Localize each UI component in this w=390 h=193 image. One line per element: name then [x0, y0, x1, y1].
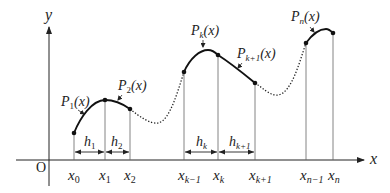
pointer-p1	[78, 110, 84, 114]
node-x1	[103, 98, 108, 103]
label-x2: x2	[123, 167, 136, 185]
label-hk: hk	[196, 134, 208, 151]
node-xk1	[253, 81, 258, 86]
piecewise-interpolation-diagram: y x O	[0, 0, 390, 193]
label-hk1: hk+1	[229, 134, 251, 151]
node-xn	[331, 31, 336, 36]
node-x0	[72, 131, 77, 136]
label-x1: x1	[98, 167, 111, 185]
segment-pk	[184, 50, 218, 72]
node-points	[72, 31, 336, 136]
label-xk1: xk+1	[248, 167, 272, 185]
x-axis-label: x	[369, 150, 377, 167]
label-xk: xk	[212, 167, 225, 185]
solid-curves	[74, 29, 333, 133]
label-p1: P1(x)	[60, 94, 90, 111]
label-xn: xn	[327, 167, 340, 185]
label-pn: Pn(x)	[290, 9, 320, 26]
label-pk1: Pk+1(x)	[236, 46, 276, 63]
pointer-pn	[310, 27, 314, 32]
label-xk-1: xk−1	[177, 167, 201, 185]
label-p2: P2(x)	[117, 78, 147, 95]
label-x0: x0	[67, 167, 80, 185]
node-xk-1	[182, 70, 187, 75]
label-xn-1: xn−1	[299, 167, 323, 185]
segment-pn	[306, 29, 333, 43]
segment-p2	[105, 100, 130, 109]
node-xn-1	[304, 41, 309, 46]
label-h2: h2	[111, 134, 123, 151]
node-xk	[216, 53, 221, 58]
y-axis-label: y	[43, 6, 53, 24]
origin-label: O	[36, 160, 46, 175]
label-h1: h1	[84, 134, 96, 151]
node-x2	[128, 107, 133, 112]
label-pk: Pk(x)	[190, 23, 219, 40]
pointer-pk1	[238, 63, 242, 68]
pointer-p2	[118, 95, 122, 100]
